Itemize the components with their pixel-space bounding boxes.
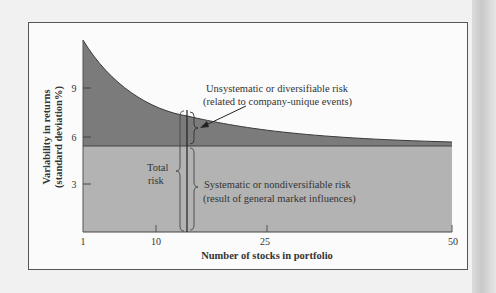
x-tick-label-1: 1: [81, 236, 86, 247]
total-risk-label-line2: risk: [148, 175, 165, 186]
y-axis-title-line2: (standard deviation%): [53, 86, 65, 188]
total-risk-label-line1: Total: [147, 162, 169, 173]
x-tick-label-50: 50: [448, 236, 458, 247]
x-tick-label-10: 10: [151, 236, 161, 247]
systematic-label-line2: (result of general market influences): [203, 193, 356, 205]
unsystematic-label-line1: Unsystematic or diversifiable risk: [206, 83, 349, 94]
x-axis-title: Number of stocks in portfolio: [201, 250, 333, 261]
y-tick-label-9: 9: [72, 83, 77, 94]
unsystematic-label-line2: (related to company-unique events): [203, 96, 352, 108]
y-tick-label-6: 6: [72, 132, 77, 143]
x-tick-label-25: 25: [260, 236, 270, 247]
annotation-arrow: [204, 106, 246, 126]
y-tick-label-3: 3: [72, 179, 77, 190]
y-axis-title-line1: Variability in returns: [41, 89, 52, 184]
risk-chart: Unsystematic or diversifiable risk (rela…: [0, 0, 496, 293]
systematic-label-line1: Systematic or nondiversifiable risk: [204, 179, 351, 190]
